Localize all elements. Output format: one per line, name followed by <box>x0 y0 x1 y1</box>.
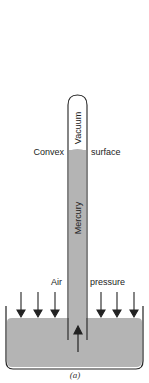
down-arrow-icon <box>130 292 138 317</box>
mercury-label: Mercury <box>73 201 83 234</box>
convex-label: Convex <box>33 147 64 157</box>
down-arrow-icon <box>113 292 121 317</box>
pressure-label: pressure <box>90 277 125 287</box>
down-arrow-icon <box>17 292 25 317</box>
surface-label: surface <box>91 147 121 157</box>
air-label: Air <box>51 277 62 287</box>
mercury-column <box>69 150 86 342</box>
vacuum-label: Vacuum <box>73 112 83 144</box>
barometer-diagram: Vacuum Mercury Convex surface Air pressu… <box>0 0 149 383</box>
down-arrow-icon <box>51 292 59 317</box>
down-arrow-icon <box>34 292 42 317</box>
figure-caption: (a) <box>70 370 81 380</box>
down-arrow-icon <box>97 292 105 317</box>
